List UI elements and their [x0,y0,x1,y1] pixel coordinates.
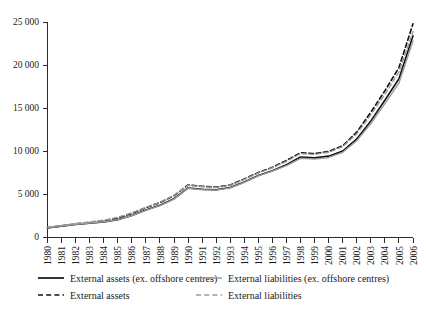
x-tick-label: 1998 [296,246,306,265]
x-tick-label: 1999 [310,246,320,265]
x-tick-label: 1983 [85,246,95,265]
y-tick-label: 5 000 [18,189,40,199]
x-tick-label: 1990 [184,246,194,265]
y-tick-label: 15 000 [13,103,39,113]
x-tick-label: 1988 [156,246,166,265]
x-tick-label: 1991 [198,246,208,265]
x-axis-tick-labels: 1980198119821983198419851986198719881989… [43,246,419,265]
x-tick-label: 1980 [43,246,53,265]
x-tick-label: 1986 [127,246,137,265]
x-tick-label: 1985 [113,246,123,265]
x-tick-label: 1994 [240,246,250,265]
x-tick-label: 1992 [212,246,222,265]
x-tick-label: 1982 [71,246,81,265]
x-tick-label: 1989 [170,246,180,265]
x-tick-label: 1981 [57,246,67,265]
x-tick-label: 2005 [395,246,405,265]
x-tick-label: 1997 [282,246,292,265]
line-chart-figure: 05 00010 00015 00020 00025 000 198019811… [0,0,426,310]
y-tick-label: 0 [34,232,39,242]
x-tick-label: 1984 [99,246,109,265]
x-tick-label: 2000 [324,246,334,265]
y-tick-label: 25 000 [13,17,39,27]
x-tick-label: 1995 [254,246,264,265]
x-tick-label: 1996 [268,246,278,265]
x-tick-label: 2002 [352,246,362,265]
legend-label: External liabilities (ex. offshore centr… [228,273,389,285]
y-tick-label: 20 000 [13,60,39,70]
x-tick-label: 2001 [338,246,348,265]
x-tick-label: 2006 [409,246,419,265]
x-tick-label: 1987 [142,246,152,265]
x-tick-label: 1993 [226,246,236,265]
legend-label: External liabilities [228,290,302,301]
y-tick-label: 10 000 [13,146,39,156]
legend-label: External assets [70,290,130,301]
legend-label: External assets (ex. offshore centres) [70,273,217,285]
x-tick-label: 2004 [380,246,390,265]
x-tick-label: 2003 [366,246,376,265]
